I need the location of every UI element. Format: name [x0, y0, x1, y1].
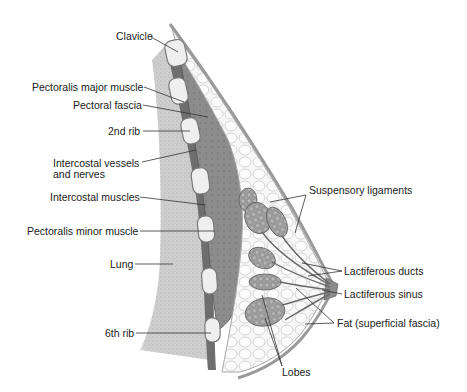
label-pectoralis-minor-muscle: Pectoralis minor muscle [27, 225, 138, 237]
label-pectoral-fascia: Pectoral fascia [73, 99, 142, 111]
label-clavicle: Clavicle [116, 30, 153, 42]
anatomy-diagram: Clavicle Pectoralis major muscle Pectora… [0, 0, 467, 392]
label-lung: Lung [110, 258, 133, 270]
label-2nd-rib: 2nd rib [108, 125, 140, 137]
sixth-rib-bone [205, 318, 221, 343]
label-pectoralis-major-muscle: Pectoralis major muscle [32, 81, 143, 93]
label-6th-rib: 6th rib [105, 327, 134, 339]
label-and-nerves: and nerves [53, 168, 105, 180]
label-lactiferous-sinus: Lactiferous sinus [344, 288, 423, 300]
label-lobes: Lobes [282, 366, 311, 378]
label-suspensory-ligaments: Suspensory ligaments [309, 184, 412, 196]
label-fat-superficial-fascia: Fat (superficial fascia) [337, 317, 440, 329]
label-intercostal-muscles: Intercostal muscles [50, 191, 140, 203]
label-lactiferous-ducts: Lactiferous ducts [344, 265, 423, 277]
